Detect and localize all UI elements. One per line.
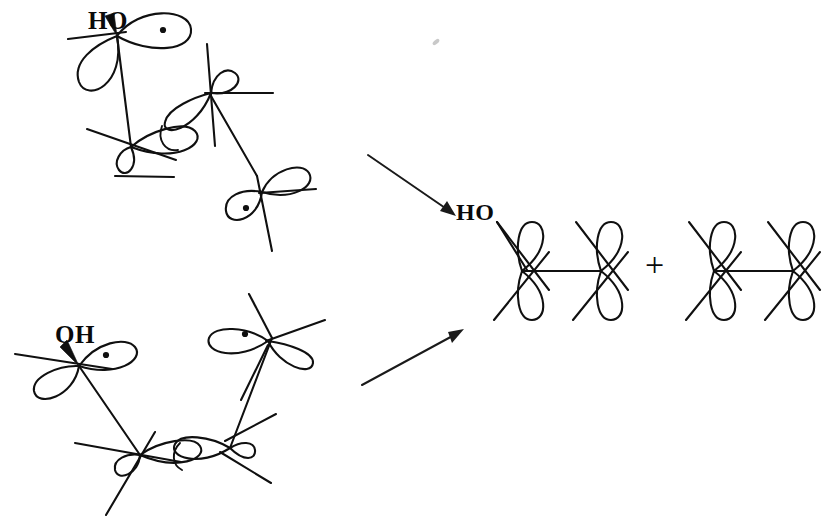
bond-upper-right-to-lower-left (765, 252, 820, 320)
p-orbital-lobe-left (117, 147, 134, 173)
bond-upper-left-to-lower-right (768, 222, 820, 290)
p-orbital-lobe-right (268, 341, 313, 369)
bond-c4-up (249, 294, 272, 338)
paper-smudge (432, 38, 441, 46)
bond-c3-upper-right (225, 414, 276, 441)
bond-c4-upper-right (266, 320, 325, 341)
p-orbital-lobe-left (209, 329, 268, 353)
p-orbital-lobe-upper (117, 13, 191, 48)
bond-upper-left-to-lower-right (689, 222, 741, 290)
radical-electron-dot (160, 27, 166, 33)
bottom-reactant-carbon-2 (75, 432, 201, 515)
bond-c4-right (259, 189, 316, 193)
top-reaction-arrow (368, 155, 456, 216)
bond-upper-right-to-lower-left (686, 252, 741, 320)
arrow-shaft (368, 155, 451, 212)
bond-c3-to-c4 (230, 338, 272, 448)
bottom-reactant-carbon-4 (209, 294, 325, 400)
bond-c3-lower-right (220, 452, 271, 483)
reaction-diagram: HO OH HO + (0, 0, 839, 529)
bottom-reaction-arrow (362, 329, 464, 385)
bond-upper-left-to-lower-right (576, 222, 628, 290)
bond-c2-upper-left (75, 443, 181, 462)
p-orbital-lobe-upper (211, 70, 238, 93)
p-orbital-lobe-left (115, 455, 140, 476)
bond-c4-down-left (241, 345, 268, 400)
radical-electron-dot (242, 331, 248, 337)
top-reactant-carbon-4 (226, 167, 316, 251)
arrow-head (440, 201, 456, 216)
radical-electron-dot (243, 205, 249, 211)
p-orbital-lobe-lower (165, 93, 211, 130)
p-orbital-lobe-lower (78, 36, 119, 91)
radical-electron-dot (103, 352, 109, 358)
bond-c3-to-c4 (211, 96, 257, 176)
p-orbital-lobe-right (230, 443, 255, 458)
arrow-head (448, 329, 464, 343)
bond-upper-right-to-lower-left (573, 252, 628, 320)
reactant-top-hydroxyl-label: HO (88, 8, 128, 33)
top-reactant-structure (68, 13, 316, 251)
product-2-structure (686, 222, 820, 320)
p-orbital-lobe-right (131, 127, 198, 154)
p-orbital-lobe-left (34, 366, 79, 399)
bottom-reactant-carbon-1 (15, 340, 140, 455)
reactant-bottom-hydroxyl-label: OH (55, 322, 95, 347)
top-reactant-carbon-3 (165, 44, 273, 176)
bond-c2-down-right (115, 176, 174, 177)
product-hydroxyl-label: HO (456, 200, 494, 224)
product-1-structure (494, 222, 628, 320)
reaction-scheme-drawing (0, 0, 839, 529)
plus-sign-label: + (645, 248, 664, 282)
bond-c1-to-c2 (79, 366, 140, 455)
top-reactant-carbon-2 (87, 127, 198, 177)
arrow-shaft (362, 333, 458, 385)
p-orbital-lobe-lower (226, 191, 262, 220)
bond-upper-left-to-lower-right (497, 222, 549, 290)
